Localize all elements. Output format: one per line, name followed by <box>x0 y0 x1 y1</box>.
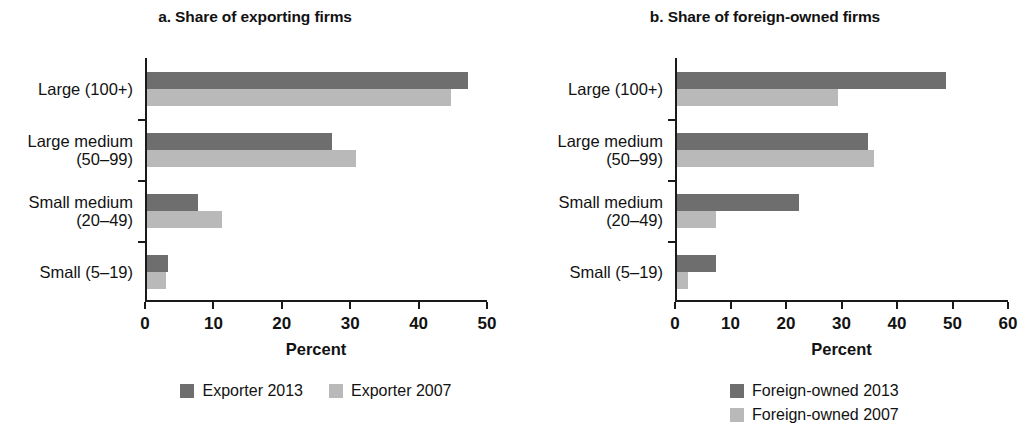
panel-b-x-axis-title: Percent <box>675 340 1008 359</box>
y-axis-tick <box>668 180 675 182</box>
bar-group <box>147 194 487 228</box>
category-label: Large medium (50–99) <box>0 131 133 168</box>
x-axis-tick-label: 40 <box>888 314 907 334</box>
x-axis-tick <box>418 302 420 309</box>
bar-exporter-2007 <box>147 150 356 167</box>
legend-label: Foreign-owned 2007 <box>752 406 899 424</box>
bar-exporter-2007 <box>147 272 166 289</box>
x-axis-tick-label: 60 <box>999 314 1018 334</box>
panel-a-x-axis-title: Percent <box>145 340 487 359</box>
panel-a-title: a. Share of exporting firms <box>0 8 510 26</box>
panel-a-legend: Exporter 2013Exporter 2007 <box>145 382 487 400</box>
x-axis-tick-label: 10 <box>204 314 223 334</box>
y-axis-tick <box>668 119 675 121</box>
panel-b-legend: Foreign-owned 2013Foreign-owned 2007 <box>675 382 1008 424</box>
x-axis-tick-label: 0 <box>670 314 679 334</box>
panel-b-plot-area: 0102030405060Large (100+)Large medium (5… <box>675 58 1008 302</box>
bar-foreign-owned-2007 <box>677 272 688 289</box>
x-axis-tick <box>349 302 351 309</box>
x-axis-tick <box>952 302 954 309</box>
x-axis-tick-label: 20 <box>272 314 291 334</box>
x-axis-tick <box>674 302 676 309</box>
bar-group <box>677 133 1008 167</box>
legend-label: Exporter 2013 <box>202 382 303 400</box>
category-label: Large (100+) <box>463 79 663 97</box>
x-axis-tick <box>212 302 214 309</box>
bar-exporter-2013 <box>147 255 168 272</box>
bar-foreign-owned-2007 <box>677 150 874 167</box>
legend-item: Exporter 2013 <box>180 382 303 400</box>
x-axis-tick-label: 30 <box>341 314 360 334</box>
category-label: Small (5–19) <box>0 262 133 280</box>
category-label: Large (100+) <box>0 79 133 97</box>
legend-item: Foreign-owned 2013 <box>730 382 899 400</box>
legend-swatch-icon <box>730 384 744 398</box>
bar-group <box>677 194 1008 228</box>
x-axis-tick <box>144 302 146 309</box>
panel-a-exporting-firms: a. Share of exporting firms 01020304050L… <box>0 0 510 435</box>
x-axis-tick <box>1007 302 1009 309</box>
legend-swatch-icon <box>180 384 194 398</box>
x-axis-tick <box>486 302 488 309</box>
x-axis-tick-label: 20 <box>777 314 796 334</box>
legend-swatch-icon <box>329 384 343 398</box>
x-axis-tick <box>730 302 732 309</box>
x-axis-tick-label: 10 <box>721 314 740 334</box>
category-label: Small medium (20–49) <box>463 192 663 229</box>
panel-b-foreign-owned-firms: b. Share of foreign-owned firms 01020304… <box>510 0 1020 435</box>
bar-exporter-2007 <box>147 89 451 106</box>
y-axis-tick <box>138 241 145 243</box>
legend-label: Exporter 2007 <box>351 382 452 400</box>
x-axis-tick-label: 40 <box>409 314 428 334</box>
bar-exporter-2013 <box>147 72 468 89</box>
y-axis-tick <box>668 241 675 243</box>
bar-exporter-2013 <box>147 133 332 150</box>
legend-label: Foreign-owned 2013 <box>752 382 899 400</box>
figure-container: a. Share of exporting firms 01020304050L… <box>0 0 1020 435</box>
x-axis-tick <box>841 302 843 309</box>
x-axis-tick-label: 0 <box>140 314 149 334</box>
bar-exporter-2007 <box>147 211 222 228</box>
bar-foreign-owned-2007 <box>677 211 716 228</box>
bar-group <box>147 133 487 167</box>
legend-swatch-icon <box>730 408 744 422</box>
bar-foreign-owned-2013 <box>677 194 799 211</box>
bar-foreign-owned-2013 <box>677 255 716 272</box>
legend-item: Foreign-owned 2007 <box>730 406 899 424</box>
x-axis-tick <box>281 302 283 309</box>
x-axis-tick-label: 50 <box>943 314 962 334</box>
y-axis-tick <box>138 180 145 182</box>
bar-group <box>677 72 1008 106</box>
y-axis-tick <box>138 119 145 121</box>
legend-item: Exporter 2007 <box>329 382 452 400</box>
category-label: Small medium (20–49) <box>0 192 133 229</box>
bar-foreign-owned-2013 <box>677 72 946 89</box>
panel-a-plot-area: 01020304050Large (100+)Large medium (50–… <box>145 58 487 302</box>
x-axis-tick <box>785 302 787 309</box>
panel-b-title: b. Share of foreign-owned firms <box>510 8 1020 26</box>
bar-exporter-2013 <box>147 194 198 211</box>
panel-a-x-axis <box>145 300 487 302</box>
bar-group <box>147 72 487 106</box>
bar-group <box>147 255 487 289</box>
bar-foreign-owned-2013 <box>677 133 868 150</box>
category-label: Small (5–19) <box>463 262 663 280</box>
bar-group <box>677 255 1008 289</box>
bar-foreign-owned-2007 <box>677 89 838 106</box>
x-axis-tick <box>896 302 898 309</box>
x-axis-tick-label: 30 <box>832 314 851 334</box>
category-label: Large medium (50–99) <box>463 131 663 168</box>
x-axis-tick-label: 50 <box>478 314 497 334</box>
